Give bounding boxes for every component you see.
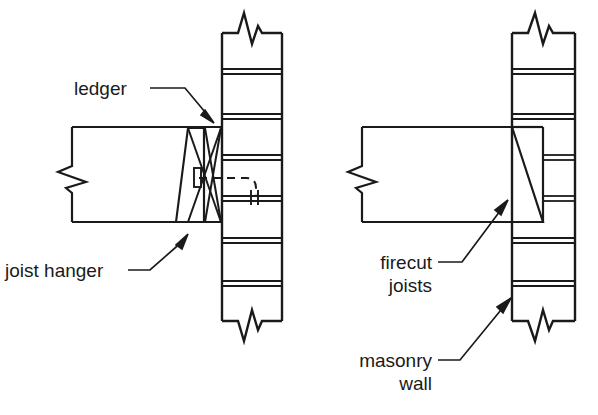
callout-ledger: ledger — [74, 78, 214, 123]
left-detail-group: ledger joist hanger — [4, 13, 282, 341]
joist-break-left — [58, 127, 86, 222]
wall-top-break-left — [222, 13, 282, 44]
joist-hanger-left — [176, 128, 221, 222]
masonry-wall-leader-line — [438, 305, 505, 360]
ledger-leader-line — [150, 88, 210, 118]
firecut-joist-outline — [362, 127, 543, 222]
anchor-hook — [251, 190, 258, 205]
callout-joist-hanger: joist hanger — [4, 234, 188, 281]
joist-hanger-label: joist hanger — [4, 260, 104, 281]
firecut-joist-right — [348, 127, 543, 222]
firecut-leader-line — [438, 207, 503, 262]
ledger-label: ledger — [74, 78, 127, 99]
diagram-canvas: ledger joist hanger — [0, 0, 598, 415]
masonry-wall-label-line1: masonry — [359, 350, 432, 371]
wall-top-break-right — [512, 13, 575, 44]
firecut-joists-label-line1: firecut — [380, 252, 432, 273]
joist-break-right — [348, 127, 376, 222]
joist-hanger-arrowhead — [176, 234, 188, 249]
masonry-wall-label-line2: wall — [398, 373, 432, 394]
wall-bottom-break-right — [512, 310, 575, 341]
construction-detail-svg: ledger joist hanger — [0, 0, 598, 415]
masonry-wall-arrowhead — [497, 298, 511, 313]
callout-firecut-joists: firecut joists — [380, 200, 508, 296]
wall-bottom-break-left — [222, 310, 282, 341]
firecut-arrowhead — [495, 200, 508, 215]
right-detail-group: firecut joists masonry wall — [348, 13, 575, 394]
firecut-joists-label-line2: joists — [388, 275, 432, 296]
ledger-arrowhead — [201, 110, 214, 123]
callout-masonry-wall: masonry wall — [359, 298, 511, 394]
